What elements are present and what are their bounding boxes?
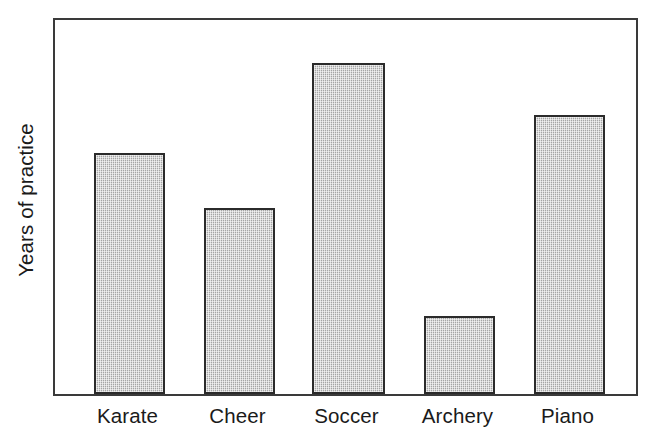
bar-piano	[534, 115, 605, 394]
x-tick-label-piano: Piano	[532, 404, 603, 434]
bar-soccer	[312, 63, 385, 394]
bar-chart: Years of practice Karate Cheer Soccer Ar…	[0, 0, 655, 438]
x-tick-label-cheer: Cheer	[202, 404, 273, 434]
bar-karate	[94, 153, 165, 394]
x-tick-label-soccer: Soccer	[310, 404, 383, 434]
y-axis-label: Years of practice	[0, 0, 52, 400]
plot-area	[55, 20, 636, 394]
x-tick-label-karate: Karate	[92, 404, 163, 434]
bar-cheer	[204, 208, 275, 394]
bar-archery	[424, 316, 495, 394]
x-tick-label-archery: Archery	[422, 404, 493, 434]
y-axis-label-text: Years of practice	[14, 123, 38, 277]
plot-frame	[53, 18, 638, 396]
